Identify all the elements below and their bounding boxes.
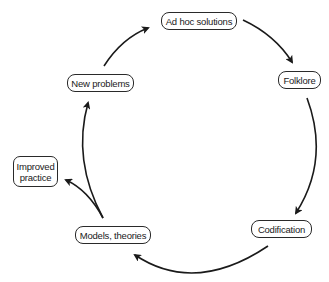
arrow-models-to-improved [66,180,103,218]
node-label: Folklore [283,75,315,86]
arrow-adhoc-to-folklore [243,20,292,62]
node-label-line1: Improved [17,161,55,172]
arrow-folklore-to-codification [296,98,316,213]
node-label-line2: practice [20,172,52,183]
node-label: Ad hoc solutions [166,16,233,27]
node-ad-hoc-solutions: Ad hoc solutions [161,12,237,30]
node-new-problems: New problems [67,74,134,92]
node-label: Codification [258,224,305,235]
cycle-edges [0,0,329,282]
node-folklore: Folklore [278,71,321,89]
node-codification: Codification [251,220,312,238]
node-label: New problems [71,78,129,89]
node-improved-practice: Improved practice [13,156,58,187]
arrow-newproblems-to-adhoc [104,28,148,66]
node-models-theories: Models, theories [75,226,151,244]
arrow-codification-to-models [135,246,268,273]
node-label: Models, theories [80,230,147,241]
